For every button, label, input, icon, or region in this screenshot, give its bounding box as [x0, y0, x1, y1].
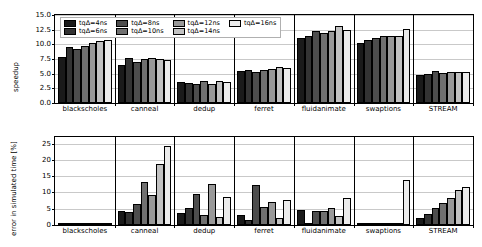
legend-entry[interactable]: tqΔ=12ns — [173, 20, 220, 27]
bar — [432, 208, 440, 225]
error-bars — [55, 137, 473, 225]
bar — [432, 71, 440, 103]
speedup-y-axis-title: speedup — [12, 62, 20, 92]
gridline — [55, 88, 473, 89]
y-axis-tick-label: 15.0 — [35, 12, 51, 19]
bar — [237, 215, 245, 225]
bar — [403, 29, 411, 103]
bar — [372, 223, 380, 225]
x-axis-category-label: fluidanimate — [302, 228, 346, 235]
bar — [177, 82, 185, 103]
legend-swatch-icon — [173, 28, 185, 35]
bar — [104, 40, 112, 103]
legend-entry[interactable]: tqΔ=14ns — [173, 28, 220, 35]
y-axis-tick-label: 0 — [47, 222, 51, 229]
bar — [268, 202, 276, 225]
x-axis-category-label: swaptions — [366, 106, 401, 113]
bar — [380, 223, 388, 225]
bar — [268, 69, 276, 103]
x-axis-tick-mark — [234, 225, 235, 228]
bar — [141, 59, 149, 103]
bar — [416, 75, 424, 103]
bar — [96, 223, 104, 225]
y-axis-tick-label: 10 — [42, 189, 51, 196]
group-separator — [234, 137, 235, 225]
y-axis-tick-label: 15 — [42, 173, 51, 180]
bar — [208, 184, 216, 225]
x-axis-category-label: blackscholes — [62, 228, 107, 235]
gridline — [55, 144, 473, 145]
x-axis-tick-mark — [294, 103, 295, 106]
x-axis-category-label: canneal — [131, 106, 159, 113]
legend-entry[interactable]: tqΔ=8ns — [116, 20, 163, 27]
gridline — [55, 15, 473, 16]
bar — [312, 211, 320, 225]
y-axis-tick-mark — [52, 88, 55, 89]
bar — [193, 84, 201, 103]
group-separator — [174, 137, 175, 225]
bar — [328, 31, 336, 103]
x-axis-category-label: STREAM — [429, 106, 458, 113]
bar — [148, 195, 156, 225]
bar — [328, 208, 336, 225]
bar — [455, 190, 463, 225]
y-axis-tick-label: 5 — [47, 205, 51, 212]
bar — [208, 84, 216, 103]
gridline — [55, 44, 473, 45]
bar — [276, 218, 284, 225]
bar — [439, 203, 447, 225]
bar — [424, 214, 432, 225]
y-axis-tick-mark — [52, 30, 55, 31]
bar — [81, 46, 89, 103]
x-axis-category-label: swaptions — [366, 228, 401, 235]
bar — [343, 30, 351, 103]
bar — [387, 223, 395, 225]
bar — [439, 73, 447, 104]
bar — [297, 38, 305, 103]
x-axis-tick-mark — [473, 103, 474, 106]
legend-entry[interactable]: tqΔ=16ns — [229, 20, 276, 27]
x-axis-tick-mark — [354, 225, 355, 228]
legend-entry[interactable]: tqΔ=6ns — [64, 28, 107, 35]
y-axis-tick-mark — [52, 160, 55, 161]
bar — [260, 70, 268, 103]
x-axis-category-label: ferret — [254, 228, 273, 235]
x-axis-category-label: fluidanimate — [302, 106, 346, 113]
gridline — [55, 176, 473, 177]
x-axis-category-label: ferret — [254, 106, 273, 113]
bar — [380, 36, 388, 103]
x-axis-tick-mark — [174, 103, 175, 106]
error-group-separators: blackscholescannealdedupferretfluidanima… — [55, 137, 473, 225]
y-axis-tick-mark — [52, 176, 55, 177]
bar — [133, 204, 141, 225]
bar — [283, 200, 291, 225]
legend-swatch-icon — [64, 20, 76, 27]
gridline — [55, 209, 473, 210]
bar — [364, 40, 372, 103]
group-separator — [294, 15, 295, 103]
bar — [125, 58, 133, 103]
bar — [156, 59, 164, 103]
bar — [252, 185, 260, 225]
y-axis-tick-label: 20 — [42, 156, 51, 163]
y-axis-tick-label: 5.0 — [40, 70, 51, 77]
bar — [252, 72, 260, 103]
bar — [343, 198, 351, 225]
bar — [462, 187, 470, 225]
bar — [447, 198, 455, 225]
legend-entry[interactable]: tqΔ=4ns — [64, 20, 107, 27]
bar — [424, 74, 432, 103]
bar — [237, 71, 245, 103]
bar — [118, 211, 126, 225]
bar — [283, 68, 291, 103]
legend-entry[interactable]: tqΔ=10ns — [116, 28, 163, 35]
y-axis-tick-label: 25 — [42, 140, 51, 147]
bar — [89, 43, 97, 103]
y-axis-tick-mark — [52, 59, 55, 60]
group-separator — [413, 137, 414, 225]
speedup-panel: speedup 0.02.55.07.510.012.515.0 blacksc… — [0, 0, 482, 124]
bar — [66, 223, 74, 225]
legend-label: tqΔ=4ns — [79, 20, 107, 27]
bar — [357, 43, 365, 103]
bar — [372, 38, 380, 103]
